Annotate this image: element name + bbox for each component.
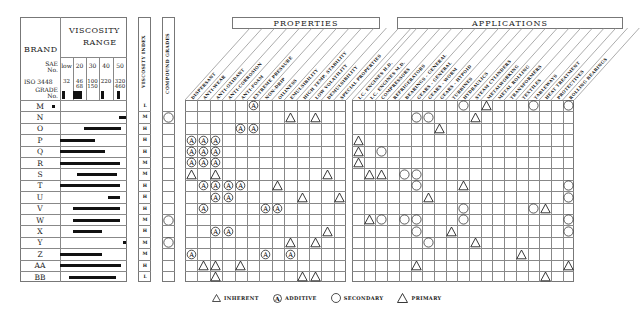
grid-row-line [352, 123, 574, 124]
viscosity-bar [108, 196, 120, 199]
small-triangle-icon [212, 294, 221, 302]
grid-row-line [185, 111, 346, 112]
row-divider [162, 248, 175, 249]
svg-text:A: A [225, 194, 231, 202]
primary-triangle-icon [364, 214, 375, 225]
svg-text:A: A [262, 251, 268, 259]
additive-circled-a-icon: A [210, 180, 221, 191]
primary-triangle-icon [322, 169, 333, 180]
additive-circled-a-icon: A [285, 249, 296, 260]
secondary-circle-icon [399, 169, 410, 180]
svg-text:A: A [237, 125, 243, 133]
additive-circled-a-icon: A [186, 249, 197, 260]
brand-name: Q [20, 147, 60, 156]
primary-triangle-icon [210, 169, 221, 180]
svg-text:A: A [188, 159, 194, 167]
grade-header-top [60, 57, 127, 58]
primary-triangle-icon [481, 100, 492, 111]
row-divider [138, 180, 151, 181]
primary-triangle-icon [364, 169, 375, 180]
legend-secondary: SECONDARY [331, 293, 384, 303]
viscosity-index-value: H [137, 263, 153, 268]
grade-marker [101, 91, 104, 99]
primary-triangle-icon [297, 271, 308, 282]
svg-text:A: A [225, 182, 231, 190]
additive-circled-a-icon: A [198, 203, 209, 214]
secondary-circle-icon [563, 192, 574, 203]
additive-circled-a-icon: A [186, 157, 197, 168]
grid-row-line [185, 260, 346, 261]
row-divider [162, 191, 175, 192]
row-divider [138, 260, 151, 261]
additive-circled-a-icon: A [198, 157, 209, 168]
secondary-circle-icon [411, 226, 422, 237]
svg-text:A: A [287, 251, 293, 259]
primary-triangle-icon [272, 180, 283, 191]
additive-circled-a-icon: A [210, 146, 221, 157]
viscosity-index-value: M [137, 251, 153, 256]
grid-row-line [185, 134, 346, 135]
primary-triangle-icon [376, 169, 387, 180]
grid-row-line [185, 191, 346, 192]
svg-text:A: A [188, 148, 194, 156]
secondary-circle-icon [563, 180, 574, 191]
primary-triangle-icon [470, 237, 481, 248]
iso-grade: 46 68 [73, 79, 86, 89]
primary-triangle-icon [446, 226, 457, 237]
brand-name: W [20, 216, 60, 225]
viscosity-bar [73, 230, 102, 233]
compound-grades-header: COMPOUND GRADES [165, 33, 170, 94]
viscosity-index-value: M [137, 171, 153, 176]
primary-triangle-icon [186, 169, 197, 180]
svg-text:A: A [237, 182, 243, 190]
viscosity-index-value: M [137, 240, 153, 245]
additive-circled-a-icon: A [223, 180, 234, 191]
viscosity-index-value: L [137, 274, 153, 279]
svg-text:A: A [200, 159, 206, 167]
additive-circled-a-icon: A [198, 180, 209, 191]
viscosity-bar [60, 264, 121, 267]
grid-row-line [185, 123, 346, 124]
additive-circled-a-icon: A [223, 192, 234, 203]
secondary-circle-icon [528, 203, 539, 214]
legend-primary: PRIMARY [397, 293, 441, 303]
svg-text:A: A [212, 137, 218, 145]
brand-name: Z [20, 250, 60, 259]
grid-row-line [352, 157, 574, 158]
svg-text:A: A [188, 137, 194, 145]
grid-row-line [352, 134, 574, 135]
svg-text:A: A [225, 228, 231, 236]
svg-text:A: A [188, 251, 194, 259]
svg-text:A: A [200, 148, 206, 156]
svg-text:A: A [212, 228, 218, 236]
row-divider [138, 214, 151, 215]
row-divider [138, 248, 151, 249]
secondary-circle-icon [411, 112, 422, 123]
primary-triangle-icon [423, 192, 434, 203]
additive-circled-a-icon: A [210, 192, 221, 203]
row-divider [162, 168, 175, 169]
viscosity-index-value: M [137, 114, 153, 119]
grid-row-line [185, 271, 346, 272]
legend: INHERENT A ADDITIVE SECONDARY PRIMARY [212, 293, 442, 303]
viscosity-index-value: H [137, 183, 153, 188]
triangle-icon [397, 293, 408, 303]
viscosity-bar [60, 150, 105, 153]
viscosity-index-value: M [137, 217, 153, 222]
primary-triangle-icon [297, 192, 308, 203]
row-divider [138, 168, 151, 169]
secondary-circle-icon [528, 100, 539, 111]
row-divider [138, 225, 151, 226]
circle-icon [331, 293, 341, 303]
compound-grade-circle-icon [163, 112, 174, 123]
circled-a-icon: A [273, 294, 282, 303]
compound-grade-circle-icon [163, 237, 174, 248]
sae-grade: 20 [73, 62, 86, 69]
grade-marker [79, 91, 82, 99]
primary-triangle-icon [470, 112, 481, 123]
row-divider [162, 123, 175, 124]
viscosity-index-value: H [137, 228, 153, 233]
primary-triangle-icon [353, 135, 364, 146]
additive-circled-a-icon: A [235, 123, 246, 134]
brand-name: N [20, 113, 60, 122]
